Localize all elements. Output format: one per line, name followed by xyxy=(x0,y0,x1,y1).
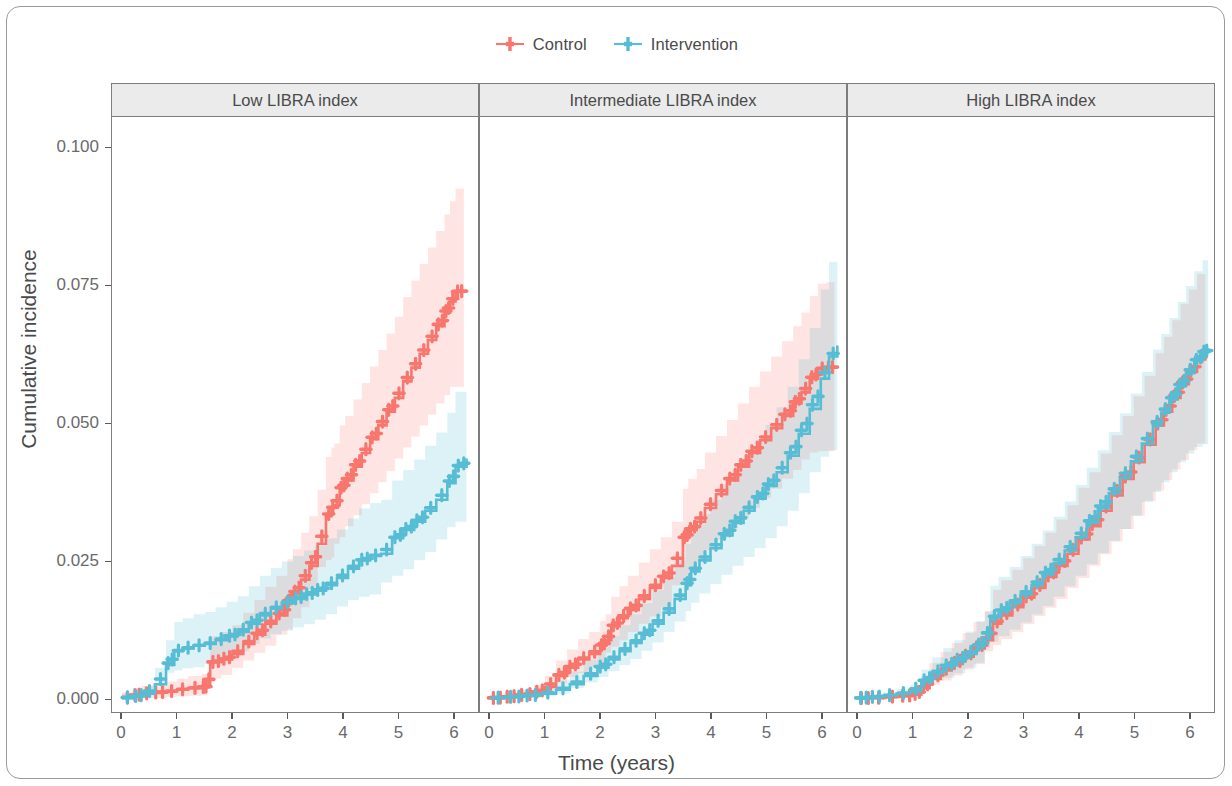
panel-strip-low: Low LIBRA index xyxy=(111,83,479,117)
figure-frame: Control Intervention Cumulative incidenc… xyxy=(6,6,1225,779)
x-tick-label: 4 xyxy=(1067,723,1091,743)
x-tick-mark xyxy=(1078,713,1079,719)
y-tick-label: 0.000 xyxy=(29,689,99,709)
panel-title-low: Low LIBRA index xyxy=(232,91,358,110)
x-tick-label: 4 xyxy=(331,723,355,743)
y-tick-label: 0.025 xyxy=(29,551,99,571)
x-tick-mark xyxy=(544,713,545,719)
x-tick-label: 2 xyxy=(220,723,244,743)
panel-body-high xyxy=(847,117,1215,713)
x-tick-label: 2 xyxy=(956,723,980,743)
censor-marks-control xyxy=(488,362,837,704)
x-tick-label: 3 xyxy=(276,723,300,743)
x-tick-mark xyxy=(710,713,711,719)
x-tick-label: 3 xyxy=(1012,723,1036,743)
x-tick-label: 1 xyxy=(900,723,924,743)
x-tick-mark xyxy=(766,713,767,719)
x-tick-mark xyxy=(912,713,913,719)
x-tick-mark xyxy=(398,713,399,719)
x-tick-label: 1 xyxy=(164,723,188,743)
x-tick-mark xyxy=(120,713,121,719)
x-tick-label: 3 xyxy=(644,723,668,743)
x-tick-label: 1 xyxy=(532,723,556,743)
x-tick-mark xyxy=(821,713,822,719)
confidence-band-intervention xyxy=(858,255,1208,698)
y-tick-label: 0.075 xyxy=(29,275,99,295)
x-tick-label: 6 xyxy=(810,723,834,743)
x-tick-label: 6 xyxy=(1178,723,1202,743)
x-tick-mark xyxy=(1023,713,1024,719)
x-tick-label: 5 xyxy=(755,723,779,743)
x-axis-label: Time (years) xyxy=(7,751,1226,775)
curve-group-2 xyxy=(848,117,1214,712)
x-tick-mark xyxy=(599,713,600,719)
panel-body-intermediate xyxy=(479,117,847,713)
curve-group-0 xyxy=(112,117,478,712)
x-tick-label: 6 xyxy=(442,723,466,743)
panel-strip-intermediate: Intermediate LIBRA index xyxy=(479,83,847,117)
x-tick-label: 5 xyxy=(1123,723,1147,743)
x-tick-mark xyxy=(453,713,454,719)
x-tick-mark xyxy=(287,713,288,719)
x-tick-mark xyxy=(856,713,857,719)
x-tick-label: 5 xyxy=(387,723,411,743)
plot-region: Cumulative incidence Time (years) 0.0000… xyxy=(7,7,1226,780)
panel-strip-high: High LIBRA index xyxy=(847,83,1215,117)
x-tick-mark xyxy=(342,713,343,719)
x-tick-mark xyxy=(488,713,489,719)
x-tick-label: 0 xyxy=(477,723,501,743)
x-tick-mark xyxy=(655,713,656,719)
x-tick-label: 0 xyxy=(845,723,869,743)
panel-title-intermediate: Intermediate LIBRA index xyxy=(569,91,756,110)
y-tick-label: 0.100 xyxy=(29,137,99,157)
x-tick-label: 0 xyxy=(109,723,133,743)
panel-title-high: High LIBRA index xyxy=(966,91,1095,110)
x-tick-mark xyxy=(1189,713,1190,719)
x-tick-mark xyxy=(967,713,968,719)
step-curve-control xyxy=(490,366,835,698)
curve-group-1 xyxy=(480,117,846,712)
x-tick-mark xyxy=(1134,713,1135,719)
x-tick-mark xyxy=(176,713,177,719)
x-tick-label: 4 xyxy=(699,723,723,743)
panel-body-low xyxy=(111,117,479,713)
x-tick-label: 2 xyxy=(588,723,612,743)
x-tick-mark xyxy=(231,713,232,719)
y-tick-label: 0.050 xyxy=(29,413,99,433)
